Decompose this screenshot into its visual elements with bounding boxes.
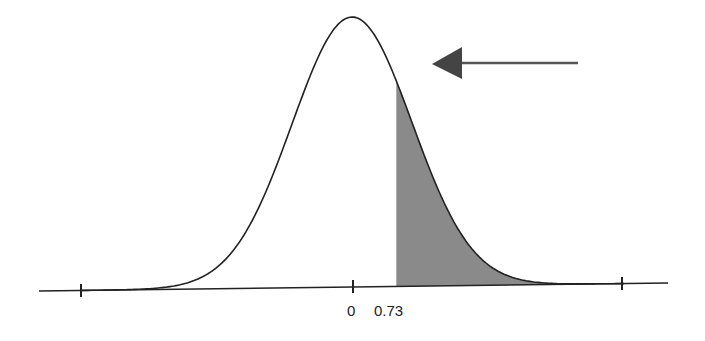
normal-curve-figure: [0, 0, 705, 341]
tick-label-zero: 0: [347, 302, 355, 319]
tick-label-z: 0.73: [374, 302, 403, 319]
arrow-head-icon: [432, 47, 462, 79]
shaded-tail: [396, 81, 625, 287]
normal-curve: [80, 17, 624, 291]
